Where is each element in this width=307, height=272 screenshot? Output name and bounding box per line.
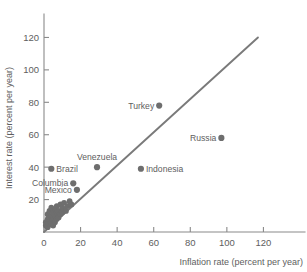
y-tick-label: 40 <box>28 162 39 173</box>
x-tick-label: 0 <box>41 237 46 248</box>
data-point[interactable] <box>69 202 75 208</box>
data-point-indonesia[interactable] <box>138 166 144 172</box>
data-point-turkey[interactable] <box>156 102 162 108</box>
y-tick-label: 60 <box>28 129 39 140</box>
point-label-brazil: Brazil <box>56 164 78 174</box>
x-axis-title: Inflation rate (percent per year) <box>179 257 303 267</box>
y-tick-label: 80 <box>28 97 39 108</box>
x-tick-label: 40 <box>112 237 123 248</box>
point-label-russia: Russia <box>190 133 216 143</box>
y-axis-title: Interest rate (percent per year) <box>4 67 14 189</box>
data-point-brazil[interactable] <box>48 166 54 172</box>
data-point-venezuela[interactable] <box>94 164 100 170</box>
data-point-mexico[interactable] <box>74 187 80 193</box>
scatter-plot: 02040608010012020406080100120Inflation r… <box>0 0 307 272</box>
point-label-turkey: Turkey <box>128 101 155 111</box>
y-tick-label: 120 <box>23 32 39 43</box>
x-tick-label: 80 <box>185 237 196 248</box>
point-label-mexico: Mexico <box>45 185 72 195</box>
reference-line <box>44 37 258 232</box>
data-point-russia[interactable] <box>218 135 224 141</box>
chart-screenshot: 02040608010012020406080100120Inflation r… <box>0 0 307 272</box>
x-tick-label: 20 <box>75 237 86 248</box>
x-tick-label: 100 <box>219 237 235 248</box>
point-label-venezuela: Venezuela <box>77 152 117 162</box>
x-tick-label: 60 <box>148 237 159 248</box>
point-label-indonesia: Indonesia <box>146 164 183 174</box>
x-tick-label: 120 <box>255 237 271 248</box>
y-tick-label: 20 <box>28 194 39 205</box>
y-tick-label: 100 <box>23 64 39 75</box>
